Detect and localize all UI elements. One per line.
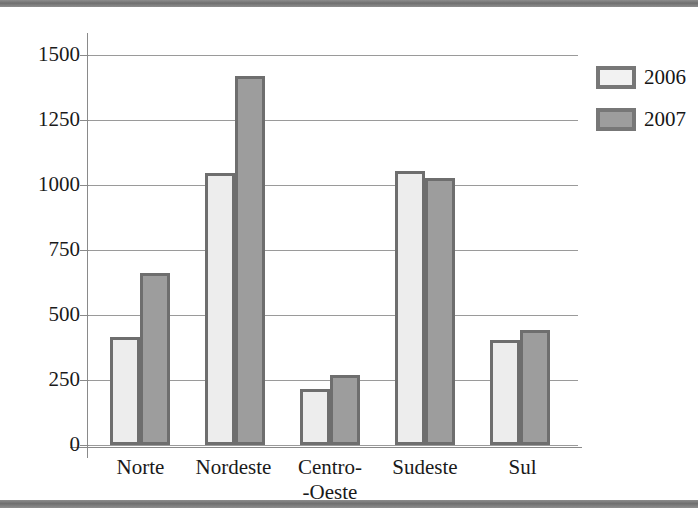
legend-item-2007[interactable]: 2007 bbox=[596, 106, 696, 133]
category-label-sul: Sul bbox=[470, 455, 575, 480]
y-tick-label-1500: 1500 bbox=[38, 44, 80, 65]
bar-series-container bbox=[88, 48, 578, 445]
y-tick-label-0: 0 bbox=[70, 434, 81, 455]
bar-sudeste-2007[interactable] bbox=[425, 178, 455, 445]
bar-nordeste-2007[interactable] bbox=[235, 76, 265, 445]
chart-legend: 2006 2007 bbox=[596, 64, 696, 148]
legend-item-2006[interactable]: 2006 bbox=[596, 64, 696, 91]
y-tick-label-1250: 1250 bbox=[38, 109, 80, 130]
x-axis-category-labels: Norte Nordeste Centro- -Oeste Sudeste Su… bbox=[88, 455, 588, 511]
gridline-0 bbox=[88, 445, 578, 446]
bar-sul-2007[interactable] bbox=[520, 330, 550, 445]
category-label-centro-oeste-line2: -Oeste bbox=[276, 480, 384, 505]
bar-chart-figure: 1500 1250 1000 750 500 250 0 bbox=[0, 7, 698, 500]
plot-area bbox=[88, 48, 578, 454]
category-label-nordeste: Nordeste bbox=[180, 455, 287, 480]
bar-centro-oeste-2006[interactable] bbox=[300, 389, 330, 445]
y-tick-label-250: 250 bbox=[49, 369, 81, 390]
scan-artifact-band-top bbox=[0, 0, 698, 7]
bar-centro-oeste-2007[interactable] bbox=[330, 375, 360, 445]
y-tick-label-750: 750 bbox=[49, 239, 81, 260]
bar-norte-2006[interactable] bbox=[110, 337, 140, 445]
category-label-norte-line1: Norte bbox=[117, 455, 165, 479]
category-label-centro-oeste-line1: Centro- bbox=[298, 455, 362, 479]
category-label-norte: Norte bbox=[88, 455, 193, 480]
y-axis-tick-labels: 1500 1250 1000 750 500 250 0 bbox=[0, 48, 80, 454]
category-label-sul-line1: Sul bbox=[508, 455, 536, 479]
legend-label-2006: 2006 bbox=[644, 67, 686, 88]
category-label-sudeste: Sudeste bbox=[371, 455, 479, 480]
legend-label-2007: 2007 bbox=[644, 109, 686, 130]
category-label-sudeste-line1: Sudeste bbox=[392, 455, 457, 479]
category-label-nordeste-line1: Nordeste bbox=[196, 455, 272, 479]
y-tick-label-1000: 1000 bbox=[38, 174, 80, 195]
legend-swatch-2007-icon bbox=[596, 108, 636, 131]
bar-sudeste-2006[interactable] bbox=[395, 171, 425, 445]
bar-nordeste-2006[interactable] bbox=[205, 173, 235, 445]
category-label-centro-oeste: Centro- -Oeste bbox=[276, 455, 384, 505]
bar-sul-2006[interactable] bbox=[490, 340, 520, 445]
legend-swatch-2006-icon bbox=[596, 66, 636, 89]
bar-norte-2007[interactable] bbox=[140, 273, 170, 445]
y-tick-label-500: 500 bbox=[49, 304, 81, 325]
